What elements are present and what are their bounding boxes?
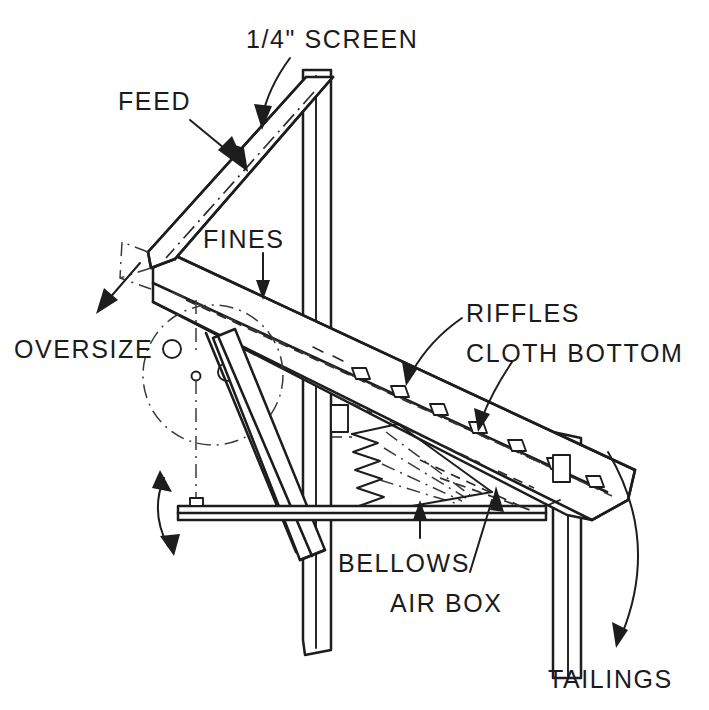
- air-box-label: AIR BOX: [390, 589, 503, 617]
- fines-label: FINES: [203, 225, 285, 253]
- cloth-bottom-label: CLOTH BOTTOM: [466, 339, 683, 367]
- screen-label: 1/4" SCREEN: [246, 25, 418, 53]
- riffles-label: RIFFLES: [466, 299, 580, 327]
- diagram-canvas: 1/4" SCREEN FEED FINES OVERSIZE RIFFLES …: [0, 0, 709, 710]
- technical-diagram: 1/4" SCREEN FEED FINES OVERSIZE RIFFLES …: [0, 0, 709, 710]
- bellows-label: BELLOWS: [338, 549, 470, 577]
- tailings-label: TAILINGS: [548, 665, 673, 693]
- oversize-label: OVERSIZE: [14, 335, 153, 363]
- feed-label: FEED: [118, 87, 191, 115]
